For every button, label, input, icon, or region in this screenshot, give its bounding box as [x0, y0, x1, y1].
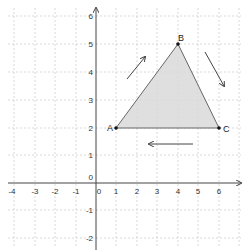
svg-text:6: 6 — [217, 187, 222, 196]
coordinate-plane: -4 -3 -2 -1 0 1 2 3 4 5 6 6 5 4 3 2 1 0 … — [0, 0, 249, 252]
svg-text:4: 4 — [176, 187, 181, 196]
svg-text:5: 5 — [196, 187, 201, 196]
point-c — [217, 126, 221, 130]
label-c: C — [223, 124, 230, 134]
svg-text:-1: -1 — [72, 187, 80, 196]
svg-text:5: 5 — [89, 40, 94, 49]
svg-text:3: 3 — [155, 187, 160, 196]
label-b: B — [178, 33, 184, 43]
point-a — [114, 126, 118, 130]
svg-text:6: 6 — [89, 12, 94, 21]
svg-text:-3: -3 — [31, 187, 39, 196]
svg-text:-1: -1 — [86, 206, 94, 215]
y-tick-labels: 6 5 4 3 2 1 0 -1 -2 — [86, 12, 94, 243]
svg-text:1: 1 — [114, 187, 119, 196]
label-a: A — [107, 123, 113, 133]
svg-text:3: 3 — [89, 96, 94, 105]
svg-text:2: 2 — [89, 124, 94, 133]
svg-text:-2: -2 — [51, 187, 59, 196]
arrow-a-to-b-icon — [127, 57, 145, 79]
svg-text:4: 4 — [89, 68, 94, 77]
arrow-b-to-c-icon — [205, 52, 224, 86]
svg-text:0: 0 — [89, 173, 94, 182]
x-tick-labels: -4 -3 -2 -1 0 1 2 3 4 5 6 — [8, 187, 221, 196]
svg-text:2: 2 — [135, 187, 140, 196]
svg-text:-4: -4 — [8, 187, 16, 196]
svg-text:-2: -2 — [86, 234, 94, 243]
svg-text:0: 0 — [97, 187, 102, 196]
svg-text:1: 1 — [89, 151, 94, 160]
triangle-abc — [116, 44, 219, 128]
